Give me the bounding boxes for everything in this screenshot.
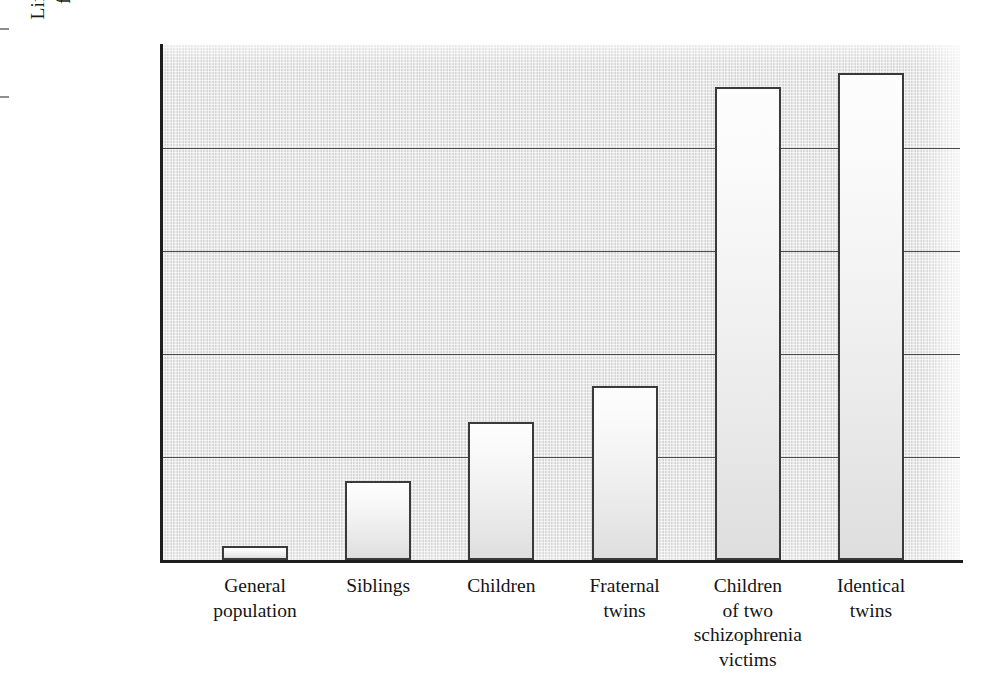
bar-general-population [222,546,288,560]
register-tick-second [0,96,9,98]
plot-area: 0%10%20%30%40%50% [163,45,960,560]
y-axis-title-line-2: for relatives of a schizophrenia victim [51,0,77,4]
bar-children-of-two-schizophrenia-victims [715,87,781,560]
x-axis-line [160,560,963,563]
y-axis-title-line-1: Lifetime risk of developing schizophreni… [25,0,51,20]
y-axis-line [160,44,163,561]
bar-fraternal-twins [592,386,658,560]
x-label-line: victims [673,648,823,673]
y-axis-title: Lifetime risk of developing schizophreni… [14,0,88,114]
bar-identical-twins [838,73,904,560]
x-label-line: Identical [796,574,946,599]
x-label-identical-twins: Identicaltwins [796,574,946,623]
bar-chart-figure: Lifetime risk of developing schizophreni… [0,0,1002,696]
register-tick-top [0,28,9,30]
bar-children [468,422,534,560]
x-label-line: twins [796,599,946,624]
bar-siblings [345,481,411,560]
x-label-line: population [180,599,330,624]
x-label-line: schizophrenia [673,623,823,648]
